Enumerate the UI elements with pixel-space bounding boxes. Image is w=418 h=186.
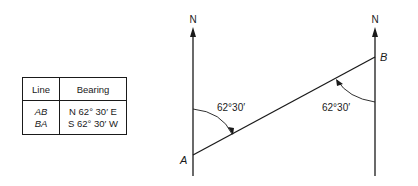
north-arrow-icon bbox=[372, 27, 378, 37]
north-label-left: N bbox=[189, 14, 196, 25]
angle-label-left: 62°30′ bbox=[217, 102, 245, 113]
point-b-label: B bbox=[380, 51, 387, 63]
point-a-label: A bbox=[179, 154, 187, 166]
north-label-right: N bbox=[371, 14, 378, 25]
north-arrow-icon bbox=[190, 27, 196, 37]
bearing-diagram: N N 62°30′ 62°30′ A B bbox=[0, 0, 418, 186]
angle-label-right: 62°30′ bbox=[322, 102, 350, 113]
angle-arc-right bbox=[337, 80, 375, 102]
arc-arrow-icon bbox=[336, 79, 343, 86]
arc-arrow-icon bbox=[228, 127, 234, 135]
